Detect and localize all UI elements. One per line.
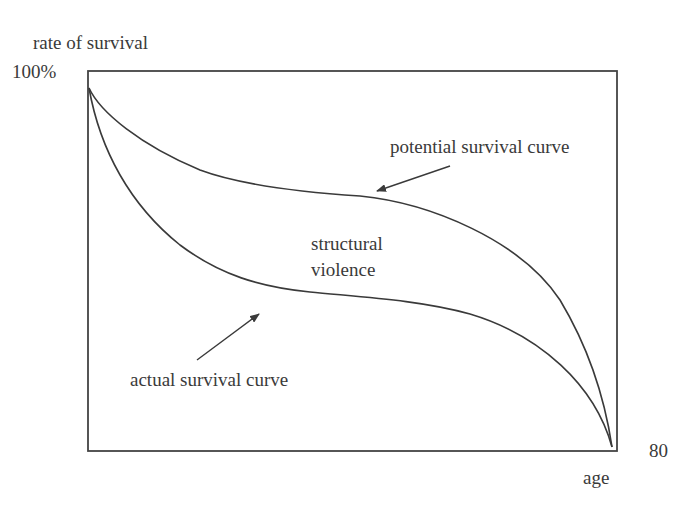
actual-curve-annotation: actual survival curve [130, 370, 288, 389]
x-axis-max-label: 80 [649, 441, 668, 460]
potential-curve-arrow [377, 166, 450, 191]
y-axis-max-label: 100% [12, 62, 56, 81]
structural-violence-annotation: structural violence [311, 231, 383, 283]
survival-curve-figure: rate of survival 100% 80 age potential s… [0, 0, 696, 511]
y-axis-label: rate of survival [33, 33, 148, 52]
potential-curve-annotation: potential survival curve [390, 137, 569, 156]
x-axis-label: age [583, 468, 609, 487]
structural-violence-line2: violence [311, 257, 383, 283]
actual-curve-arrow [197, 314, 259, 360]
structural-violence-line1: structural [311, 231, 383, 257]
